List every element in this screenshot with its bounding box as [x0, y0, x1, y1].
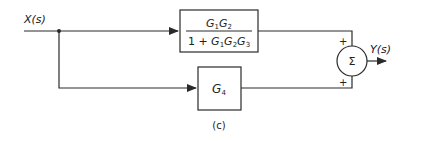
- input-label: X(s): [23, 13, 46, 26]
- branch-line: [59, 31, 196, 88]
- block-diagram: X(s) G1G2 1 + G1G2G3 + G4 + Σ Y(s) (c): [0, 0, 426, 141]
- g4-output-line: [241, 76, 352, 88]
- forward-output-line: [258, 31, 352, 46]
- plus-sign-top: +: [339, 36, 347, 47]
- sigma-symbol: Σ: [349, 55, 356, 68]
- output-label: Y(s): [370, 43, 391, 56]
- block-denominator: 1 + G1G2G3: [188, 35, 250, 49]
- figure-caption: (c): [212, 120, 225, 131]
- plus-sign-bottom: +: [339, 77, 347, 88]
